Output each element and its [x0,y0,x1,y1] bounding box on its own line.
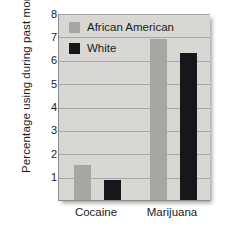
legend: African American White [69,18,174,60]
y-tick-label-5: 5 [40,79,57,90]
bar-marijuana-african-american [150,39,167,200]
legend-item-white: White [69,39,174,57]
legend-swatch-icon-white [69,43,80,54]
y-axis-title-line-1: Percentage using [20,82,34,173]
y-axis-tick-labels: 12345678 [40,0,57,233]
bar-cocaine-white [104,180,121,200]
bar-chart-figure: Percentage using during past month 12345… [0,0,228,233]
gridline-8 [59,14,210,15]
legend-label-white: White [87,42,116,54]
bar-marijuana-white [180,53,197,200]
legend-swatch-icon-african-american [69,22,80,33]
legend-item-african-american: African American [69,18,174,36]
y-tick-label-7: 7 [40,32,57,43]
y-tick-label-1: 1 [40,172,57,183]
x-axis-category-labels: CocaineMarijuana [58,205,210,225]
y-tick-label-8: 8 [40,9,57,20]
y-tick-label-6: 6 [40,55,57,66]
y-axis-title-line-2: during past month [20,0,34,79]
y-tick-label-2: 2 [40,149,57,160]
bar-cocaine-african-american [74,165,91,200]
legend-label-african-american: African American [87,21,174,33]
y-axis-title: Percentage using during past month [10,0,44,164]
y-tick-label-4: 4 [40,102,57,113]
x-axis-label-cocaine: Cocaine [58,205,134,219]
x-axis-label-marijuana: Marijuana [134,205,210,219]
plot-area: African American White [58,14,210,201]
y-tick-label-3: 3 [40,125,57,136]
